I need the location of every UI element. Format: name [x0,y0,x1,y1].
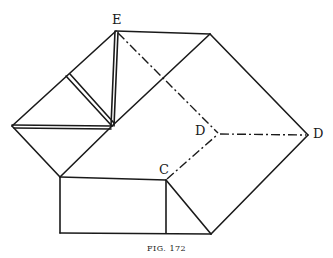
label-d-inner: D [195,124,205,137]
right-upper-edge [210,34,308,135]
diagonal-double-a [66,76,111,125]
inner-diagonal-upper [112,34,210,126]
left-upper-edge [12,31,116,126]
ridge-line-d-to-d [220,134,306,135]
figure-caption: FIG. 172 [147,245,186,253]
rect-top [60,177,166,180]
hip-line-e-to-d [118,33,218,133]
diagonal-double-b [70,74,114,123]
right-lower-edge [211,135,308,234]
valley-line-c-to-d [167,135,217,179]
horizontal-double-b [14,128,111,129]
label-d-outer: D [313,127,323,140]
label-e: E [112,13,122,26]
inner-v-edge [60,126,112,177]
rect-bottom [60,233,211,234]
left-lower-edge [12,126,60,177]
label-c: C [159,163,169,176]
roof-geometry-figure [0,0,333,258]
horizontal-double-a [12,125,112,126]
c-diagonal [166,180,211,234]
top-edge [116,31,210,34]
